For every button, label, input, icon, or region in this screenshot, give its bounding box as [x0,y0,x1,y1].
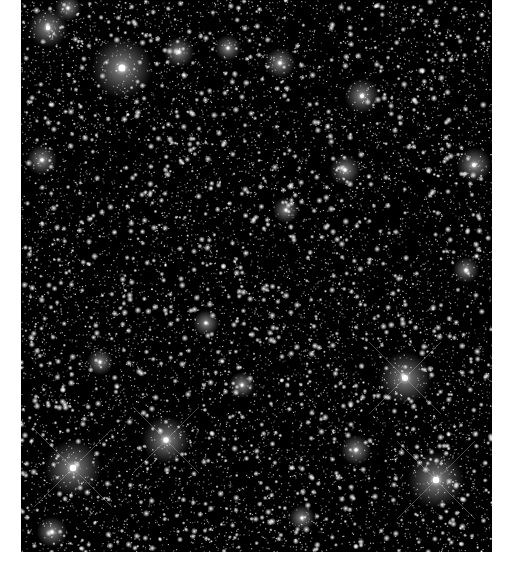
star-field-image [21,0,492,552]
star-field-canvas [21,0,492,552]
